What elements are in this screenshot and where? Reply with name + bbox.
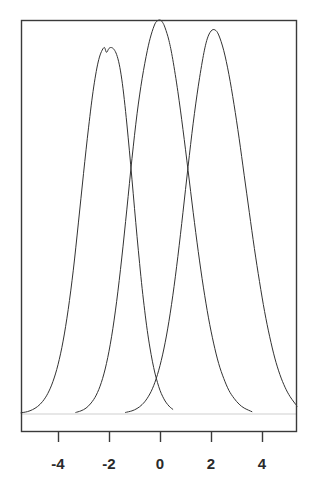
density-curve — [76, 20, 252, 413]
x-axis-tick-label: 4 — [242, 455, 282, 473]
x-axis-tick-label: -2 — [89, 455, 129, 473]
plot-canvas — [0, 0, 317, 494]
x-axis-tick-label: 2 — [191, 455, 231, 473]
x-axis-tick-label: 0 — [140, 455, 180, 473]
density-curves — [21, 20, 297, 413]
x-axis-ticks — [59, 432, 263, 442]
density-curve — [21, 47, 173, 412]
density-plot-figure: -4-2024 — [0, 0, 317, 494]
x-axis-tick-label: -4 — [38, 455, 78, 473]
